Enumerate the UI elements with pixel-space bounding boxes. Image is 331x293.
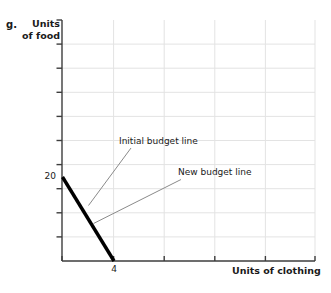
x-axis-title: Units of clothing — [232, 265, 321, 276]
annotation-new-budget-line: New budget line — [178, 167, 252, 177]
annotation-initial-budget-line: Initial budget line — [119, 136, 198, 146]
x-tick-label-4: 4 — [105, 264, 123, 274]
y-tick-label-20: 20 — [36, 171, 56, 181]
y-axis-ticks — [57, 20, 63, 237]
part-label: g. — [6, 19, 17, 30]
y-axis-title-line1: Units — [22, 18, 60, 30]
budget-line-chart — [0, 0, 331, 293]
y-axis-title-line2: of food — [22, 30, 60, 42]
y-axis-title: Units of food — [22, 18, 60, 41]
